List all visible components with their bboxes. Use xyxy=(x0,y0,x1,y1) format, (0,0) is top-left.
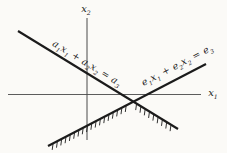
hatch-tick xyxy=(157,117,158,123)
x2-axis-label: x2 xyxy=(81,4,91,14)
hatch-tick xyxy=(166,123,167,129)
infeasible-side-hatching xyxy=(52,104,171,150)
hatch-tick xyxy=(144,109,145,115)
x1-axis-label: x1 xyxy=(208,88,218,98)
constraint-lines-diagram: a1x1 + a2x2 = a3 e1x1 + e2x2 = e3 x2 x1 xyxy=(0,0,227,153)
hatch-tick xyxy=(153,115,154,121)
hatch-tick xyxy=(136,104,137,110)
hatch-tick xyxy=(149,112,150,118)
hatch-tick xyxy=(170,125,171,131)
hatch-tick xyxy=(162,120,163,126)
hatch-tick xyxy=(140,107,141,113)
constraint-line-e xyxy=(48,64,206,146)
